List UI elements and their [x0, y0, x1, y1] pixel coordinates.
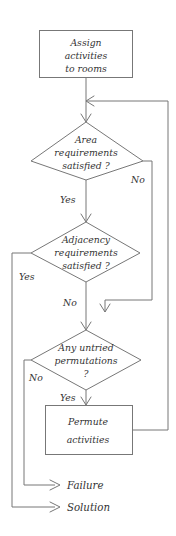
permutations-decision-line2: permutations [54, 355, 117, 366]
edge-label-area-yes: Yes [60, 194, 76, 205]
permute-process-line1: Permute [67, 416, 108, 427]
area-decision-line2: requirements [54, 147, 118, 158]
edge-label-adjacency-yes: Yes [19, 271, 35, 282]
permute-process-box [46, 406, 133, 455]
start-process-line3: to rooms [65, 63, 107, 74]
permutations-decision-line1: Any untried [57, 342, 114, 353]
edge-label-permutations-yes: Yes [60, 392, 76, 403]
permute-process-line2: activities [67, 434, 110, 445]
terminal-label-solution: Solution [67, 502, 110, 513]
terminal-label-failure: Failure [66, 480, 103, 491]
start-process-line1: Assign [69, 37, 101, 48]
area-decision-line3: satisfied ? [62, 160, 110, 171]
start-process-line2: activities [65, 50, 108, 61]
adjacency-decision-line3: satisfied ? [62, 260, 110, 271]
flowchart-diagram: Assign activities to rooms Area requirem… [0, 0, 176, 536]
area-decision-line1: Area [74, 134, 97, 145]
flowchart-canvas: Assign activities to rooms Area requirem… [0, 0, 176, 536]
edge-label-permutations-no: No [28, 372, 43, 383]
edge-label-area-no: No [130, 174, 145, 185]
edge-label-adjacency-no: No [62, 297, 77, 308]
adjacency-decision-line2: requirements [54, 247, 118, 258]
adjacency-decision-line1: Adjacency [61, 234, 111, 245]
